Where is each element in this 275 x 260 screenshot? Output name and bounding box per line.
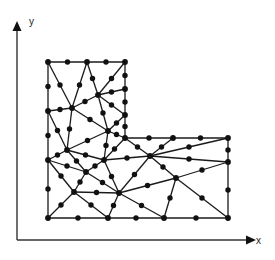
midside-node [45,84,50,89]
midside-node [225,147,230,152]
corner-node [95,92,101,98]
corner-node [173,175,179,181]
corner-node [45,108,51,114]
midside-node [114,120,119,125]
midside-node [139,203,144,208]
midside-node [111,203,116,208]
midside-node [103,143,108,148]
midside-node [94,190,99,195]
midside-node [145,183,150,188]
corner-node [45,157,51,163]
midside-node [58,173,63,178]
midside-node [45,133,50,138]
midside-node [109,174,114,179]
midside-node [88,202,93,207]
midside-node [64,163,69,168]
corner-node [225,159,231,165]
midside-node [122,99,127,104]
midside-node [45,186,50,191]
corner-node [170,135,176,141]
midside-node [103,59,108,64]
midside-node [55,128,60,133]
midside-node [77,179,82,184]
midside-node [198,135,203,140]
midside-node [112,146,117,151]
midside-node [75,215,80,220]
midside-node [100,110,105,115]
midside-node [90,76,95,81]
midside-node [122,124,127,129]
midside-node [57,107,62,112]
x-axis-label: x [256,235,261,246]
corner-node [69,105,75,111]
midside-node [199,195,204,200]
x-axis-arrow-icon [246,236,256,245]
midside-node [146,135,151,140]
corner-node [122,86,128,92]
midside-node [57,82,62,87]
midside-node [159,144,164,149]
midside-node [186,144,191,149]
midside-node [83,152,88,157]
corner-node [122,59,128,65]
corner-node [45,59,51,65]
corner-node [225,215,231,221]
midside-node [122,73,127,78]
y-axis-arrow-icon [13,21,22,31]
midside-node [55,152,60,157]
corner-node [84,59,90,65]
corner-node [122,135,128,141]
corner-node [116,190,122,196]
midside-node [92,163,97,168]
corner-node [64,147,70,153]
y-axis-label: y [29,16,34,27]
midside-node [199,167,204,172]
midside-node [186,156,191,161]
midside-node [87,117,92,122]
midside-node [74,158,79,163]
corner-node [225,135,231,141]
midside-node [114,132,119,137]
midside-node [77,82,82,87]
corner-node [83,169,89,175]
midside-node [58,202,63,207]
midside-node [225,187,230,192]
midside-node [109,76,114,81]
corner-node [101,157,107,163]
corner-node [105,215,111,221]
midside-node [167,195,172,200]
corner-node [122,112,128,118]
midside-node [67,126,72,131]
midside-node [100,180,105,185]
midside-node [85,138,90,143]
corner-node [71,189,77,195]
midside-node [160,164,165,169]
midside-node [133,215,138,220]
midside-node [82,99,87,104]
corner-node [45,215,51,221]
midside-node [132,172,137,177]
mesh-diagram [0,0,275,260]
midside-node [109,102,114,107]
corner-node [147,153,153,159]
midside-node [109,89,114,94]
midside-node [124,155,129,160]
mesh-nodes [45,59,231,221]
midside-node [193,215,198,220]
midside-node [135,144,140,149]
corner-node [105,128,111,134]
midside-node [65,59,70,64]
corner-node [161,215,167,221]
